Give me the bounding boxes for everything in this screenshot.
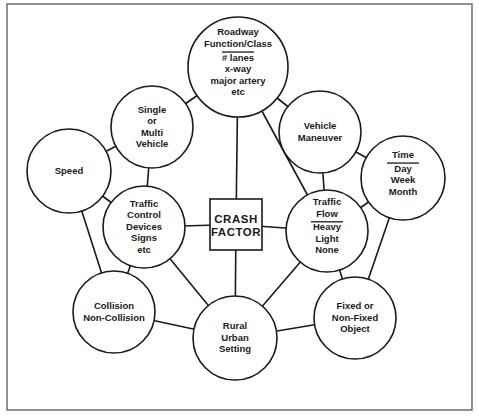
- node-title-line: Signs: [131, 232, 157, 243]
- node-title-line: Non-Collision: [83, 312, 145, 323]
- node-traffic-flow: TrafficFlowHeavyLightNone: [286, 190, 368, 272]
- node-detail-line: x-way: [225, 63, 252, 74]
- node-rural-urban-setting: RuralUrbanSetting: [193, 296, 277, 380]
- node-speed: Speed: [27, 129, 111, 213]
- node-title-line: Vehicle: [304, 120, 337, 131]
- node-single-multi-vehicle: SingleorMultiVehicle: [111, 86, 193, 168]
- node-title-line: Flow: [316, 208, 338, 219]
- node-detail-line: etc: [231, 86, 245, 97]
- node-detail-line: Heavy: [313, 221, 342, 232]
- node-title-line: etc: [137, 244, 151, 255]
- node-title-line: Control: [127, 209, 161, 220]
- node-title-line: Speed: [55, 165, 84, 176]
- node-title-line: Function/Class: [204, 38, 272, 49]
- node-detail-line: # lanes: [222, 52, 254, 63]
- node-fixed-object: Fixed orNon-FixedObject: [314, 277, 396, 359]
- crash-factor-label: FACTOR: [211, 226, 261, 238]
- node-title-line: Rural: [223, 320, 247, 331]
- node-title-line: Vehicle: [136, 138, 169, 149]
- node-title-line: Devices: [126, 221, 162, 232]
- node-title-line: Object: [340, 323, 370, 334]
- node-title-line: Non-Fixed: [332, 312, 379, 323]
- node-collision: CollisionNon-Collision: [73, 271, 155, 353]
- node-title-line: Traffic: [130, 198, 159, 209]
- node-title-line: Traffic: [313, 196, 342, 207]
- node-vehicle-maneuver: VehicleManeuver: [279, 91, 361, 173]
- node-title-line: Urban: [221, 332, 249, 343]
- node-title-line: Maneuver: [298, 132, 343, 143]
- node-title-line: Fixed or: [337, 300, 374, 311]
- node-detail-line: Month: [389, 186, 418, 197]
- node-title-line: Collision: [94, 300, 134, 311]
- crash-factor-label: CRASH: [214, 213, 257, 225]
- node-roadway: RoadwayFunction/Class# lanesx-waymajor a…: [188, 17, 288, 117]
- node-title-line: Single: [138, 104, 167, 115]
- node-title-line: Setting: [219, 343, 251, 354]
- node-title-line: Time: [392, 149, 414, 160]
- crash-factor-diagram: RoadwayFunction/Class# lanesx-waymajor a…: [0, 0, 479, 417]
- node-traffic-control-devices: TrafficControlDevicesSignsetc: [103, 186, 185, 268]
- crash-factor-box: CRASHFACTOR: [210, 199, 262, 250]
- node-detail-line: None: [315, 244, 339, 255]
- node-title-line: or: [147, 115, 157, 126]
- node-detail-line: Light: [315, 233, 339, 244]
- node-detail-line: Day: [394, 163, 412, 174]
- node-detail-line: Week: [391, 174, 416, 185]
- crash-factor-rect: [210, 199, 262, 250]
- node-title-line: Multi: [141, 127, 163, 138]
- node-detail-line: major artery: [211, 75, 267, 86]
- node-title-line: Roadway: [217, 26, 259, 37]
- node-time: TimeDayWeekMonth: [361, 136, 445, 220]
